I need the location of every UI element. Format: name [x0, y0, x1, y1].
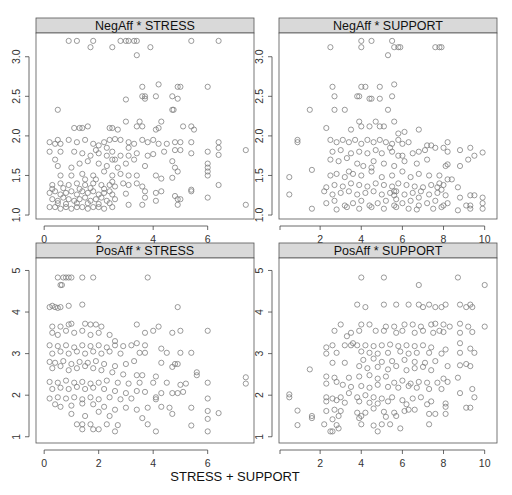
- x-tick-label: 6: [205, 457, 211, 469]
- x-axis: 246810: [280, 450, 491, 469]
- x-tick-label: 2: [96, 457, 102, 469]
- y-tick-label: 2.5: [253, 89, 265, 104]
- panels-group: NegAff * STRESS02461.01.52.02.53.0NegAff…: [10, 18, 497, 469]
- y-tick-label: 3.0: [253, 49, 265, 64]
- y-tick-label: 4: [10, 309, 22, 315]
- x-tick-label: 6: [399, 457, 405, 469]
- x-tick-label: 8: [441, 457, 447, 469]
- x-tick-label: 2: [317, 457, 323, 469]
- y-tick-label: 3: [10, 351, 22, 357]
- y-tick-label: 5: [10, 267, 22, 273]
- x-tick-label: 4: [150, 457, 156, 469]
- y-tick-label: 1.0: [10, 208, 22, 223]
- y-tick-label: 1: [253, 434, 265, 440]
- x-axis: 0246: [41, 450, 211, 469]
- y-axis: 1.01.52.02.53.0: [10, 49, 29, 222]
- panel-1: NegAff * SUPPORT2468101.01.52.02.53.0: [253, 18, 497, 245]
- y-tick-label: 3.0: [10, 49, 22, 64]
- y-tick-label: 2.0: [253, 128, 265, 143]
- panel-title: NegAff * SUPPORT: [333, 19, 443, 33]
- y-tick-label: 2.5: [10, 89, 22, 104]
- y-tick-label: 2: [10, 392, 22, 398]
- y-axis: 12345: [10, 267, 29, 439]
- panel-title: PosAff * STRESS: [96, 244, 194, 258]
- y-axis: 1.01.52.02.53.0: [253, 49, 272, 222]
- x-tick-label: 0: [41, 457, 47, 469]
- panel-title: PosAff * SUPPORT: [334, 244, 443, 258]
- x-axis: 0246: [41, 226, 211, 245]
- panel-2: PosAff * STRESS024612345: [10, 243, 254, 469]
- x-axis: 246810: [280, 226, 491, 245]
- y-axis: 12345: [253, 267, 272, 439]
- panel-3: PosAff * SUPPORT24681012345: [253, 243, 497, 469]
- x-tick-label: 4: [358, 457, 364, 469]
- x-axis-label: STRESS + SUPPORT: [170, 469, 299, 484]
- y-tick-label: 1: [10, 434, 22, 440]
- y-tick-label: 1.0: [253, 208, 265, 223]
- y-tick-label: 3: [253, 351, 265, 357]
- y-tick-label: 1.5: [253, 168, 265, 183]
- x-tick-label: 10: [479, 457, 491, 469]
- y-tick-label: 5: [253, 267, 265, 273]
- y-tick-label: 4: [253, 309, 265, 315]
- coplot-figure: NegAff * STRESS02461.01.52.02.53.0NegAff…: [0, 0, 512, 495]
- panel-title: NegAff * STRESS: [95, 19, 195, 33]
- y-tick-label: 2.0: [10, 128, 22, 143]
- y-tick-label: 2: [253, 392, 265, 398]
- y-tick-label: 1.5: [10, 168, 22, 183]
- panel-0: NegAff * STRESS02461.01.52.02.53.0: [10, 18, 254, 245]
